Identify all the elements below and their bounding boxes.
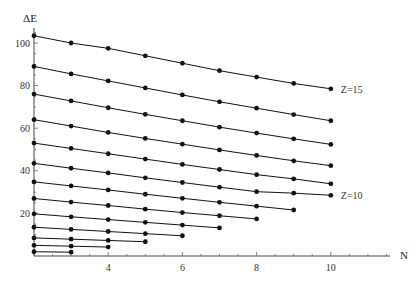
y-tick-label: 100	[15, 38, 30, 49]
data-point	[254, 189, 259, 194]
data-point	[69, 124, 74, 129]
data-point	[143, 239, 148, 244]
data-point	[328, 193, 333, 198]
y-tick-label: 60	[20, 123, 30, 134]
data-point	[69, 99, 74, 104]
data-point	[291, 81, 296, 86]
data-point	[106, 151, 111, 156]
y-tick-label: 80	[20, 80, 30, 91]
data-point	[291, 176, 296, 181]
data-point	[143, 136, 148, 141]
x-tick-label: 6	[180, 262, 185, 273]
data-point	[69, 41, 74, 46]
data-point	[106, 171, 111, 176]
x-tick-label: 8	[254, 262, 259, 273]
data-point	[106, 203, 111, 208]
data-point	[254, 204, 259, 209]
data-point	[32, 235, 37, 240]
data-point	[69, 184, 74, 189]
data-point	[217, 200, 222, 205]
data-point	[254, 131, 259, 136]
data-point	[69, 227, 74, 232]
data-point	[254, 153, 259, 158]
data-point	[32, 179, 37, 184]
data-point	[32, 249, 37, 254]
data-point	[254, 75, 259, 80]
x-tick-label: 10	[326, 262, 336, 273]
data-point	[143, 175, 148, 180]
data-point	[180, 223, 185, 228]
data-point	[69, 250, 74, 255]
data-point	[217, 68, 222, 73]
data-point	[106, 245, 111, 250]
data-point	[180, 118, 185, 123]
data-point	[143, 220, 148, 225]
data-point	[32, 196, 37, 201]
data-point	[143, 192, 148, 197]
data-point	[217, 125, 222, 130]
series-line	[34, 214, 220, 228]
x-tick-label: 4	[106, 262, 111, 273]
data-point	[106, 105, 111, 110]
data-point	[106, 217, 111, 222]
data-point	[69, 71, 74, 76]
data-point	[32, 211, 37, 216]
data-point	[69, 146, 74, 151]
data-point	[143, 207, 148, 212]
data-point	[32, 243, 37, 248]
y-axis-label: ΔE	[23, 12, 37, 24]
data-point	[291, 158, 296, 163]
data-point	[254, 172, 259, 177]
data-point	[69, 244, 74, 249]
data-point	[69, 214, 74, 219]
data-point	[32, 33, 37, 38]
data-point	[217, 167, 222, 172]
data-point	[32, 141, 37, 146]
data-point	[291, 191, 296, 196]
data-point	[180, 233, 185, 238]
data-point	[217, 99, 222, 104]
data-point	[106, 79, 111, 84]
data-point	[143, 53, 148, 58]
data-point	[328, 181, 333, 186]
y-tick-label: 40	[20, 165, 30, 176]
data-point	[217, 213, 222, 218]
data-point	[69, 166, 74, 171]
data-point	[217, 185, 222, 190]
data-point	[106, 188, 111, 193]
series-annotation: Z=10	[341, 190, 363, 201]
data-point	[180, 210, 185, 215]
data-point	[291, 208, 296, 213]
data-point	[143, 112, 148, 117]
data-point	[180, 61, 185, 66]
data-point	[328, 163, 333, 168]
data-point	[180, 162, 185, 167]
data-point	[180, 142, 185, 147]
chart-canvas: 4681020406080100ΔENZ=15Z=10	[0, 0, 418, 285]
data-point	[69, 237, 74, 242]
y-tick-label: 20	[20, 208, 30, 219]
data-point	[217, 225, 222, 230]
data-point	[106, 229, 111, 234]
data-point	[69, 200, 74, 205]
data-point	[32, 117, 37, 122]
data-point	[254, 217, 259, 222]
x-axis-label: N	[400, 249, 408, 261]
data-point	[180, 93, 185, 98]
data-point	[32, 161, 37, 166]
data-point	[328, 118, 333, 123]
data-point	[328, 86, 333, 91]
data-point	[32, 92, 37, 97]
data-point	[143, 157, 148, 162]
data-point	[32, 225, 37, 230]
data-point	[291, 136, 296, 141]
data-point	[217, 148, 222, 153]
series-annotation: Z=15	[341, 84, 363, 95]
data-point	[106, 238, 111, 243]
series-line	[34, 238, 145, 242]
data-point	[106, 46, 111, 51]
series-line	[34, 163, 331, 195]
data-point	[180, 180, 185, 185]
data-point	[106, 130, 111, 135]
data-point	[328, 142, 333, 147]
